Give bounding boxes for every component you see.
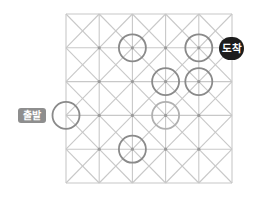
grid-node-dot	[197, 46, 200, 49]
grid-node-dot	[131, 46, 134, 49]
grid-node-dot	[131, 80, 134, 83]
grid-node-dot	[98, 148, 101, 151]
grid-node-dot	[131, 114, 134, 117]
grid-node-dot	[98, 46, 101, 49]
grid-node-dot	[197, 80, 200, 83]
grid-node-dot	[197, 114, 200, 117]
grid-node-dot	[98, 80, 101, 83]
grid-node-dot	[197, 148, 200, 151]
grid-node-dot	[164, 114, 167, 117]
end-label: 도착	[219, 37, 244, 60]
grid-node-dot	[164, 80, 167, 83]
grid-node-dot	[98, 114, 101, 117]
grid-node-dot	[131, 148, 134, 151]
grid-board	[0, 0, 257, 197]
grid-lines	[66, 14, 232, 183]
grid-node-dot	[164, 148, 167, 151]
grid-node-dot	[164, 46, 167, 49]
start-label: 출발	[18, 108, 46, 123]
